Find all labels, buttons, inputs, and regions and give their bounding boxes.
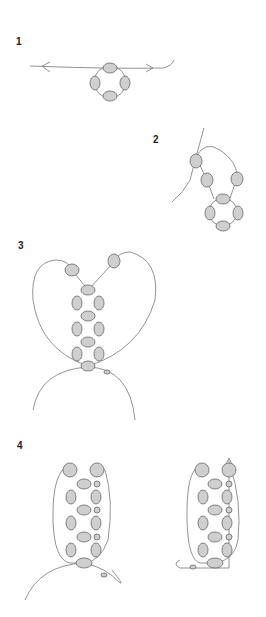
step-2-figure: [172, 128, 243, 231]
step-4-left-figure: [25, 463, 121, 600]
beading-diagram: [0, 0, 266, 617]
step-1-figure: [30, 60, 174, 101]
step-4-right-figure: [176, 458, 239, 569]
step-3-figure: [33, 252, 156, 420]
